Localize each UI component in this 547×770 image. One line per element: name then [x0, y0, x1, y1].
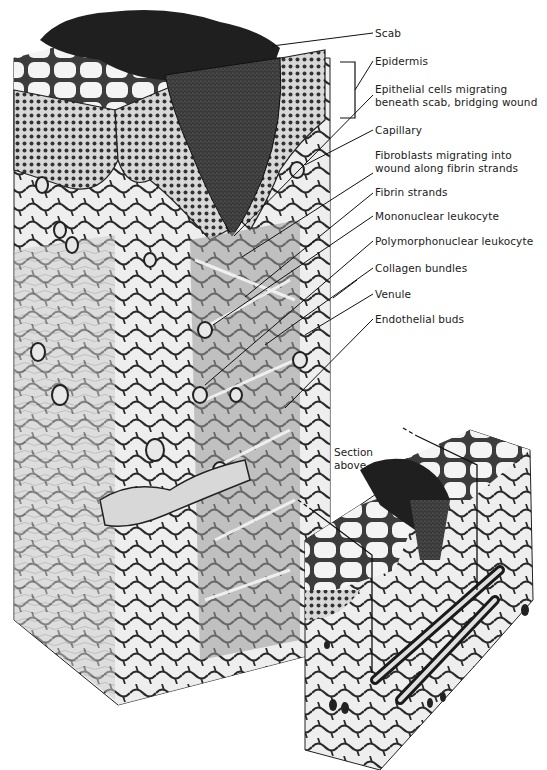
label-epithelial-cells: Epithelial cells migrating beneath scab,…: [375, 83, 537, 109]
label-scab: Scab: [375, 27, 401, 40]
label-fibroblasts: Fibroblasts migrating into wound along f…: [375, 149, 518, 175]
label-epidermis: Epidermis: [375, 55, 428, 68]
label-endothelial-buds: Endothelial buds: [375, 313, 464, 326]
label-mononuclear-leukocyte: Mononuclear leukocyte: [375, 210, 499, 223]
illustration-svg: [0, 0, 547, 770]
inset-tissue-block: [298, 428, 533, 770]
label-section-above: Section above: [334, 446, 373, 472]
label-fibrin-strands: Fibrin strands: [375, 186, 448, 199]
main-tissue-block: [14, 10, 355, 705]
label-collagen-bundles: Collagen bundles: [375, 262, 467, 275]
label-polymorphonuclear-leukocyte: Polymorphonuclear leukocyte: [375, 235, 533, 248]
wound-healing-diagram: Scab Epidermis Epithelial cells migratin…: [0, 0, 547, 770]
label-capillary: Capillary: [375, 124, 422, 137]
label-venule: Venule: [375, 288, 411, 301]
